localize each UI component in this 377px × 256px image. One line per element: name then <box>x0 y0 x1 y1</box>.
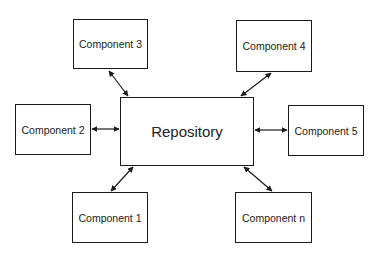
component-3-node: Component 3 <box>73 19 148 69</box>
component-5-node: Component 5 <box>288 105 364 156</box>
edge-component-3-repository <box>109 71 128 96</box>
edge-component-4-repository <box>241 73 271 96</box>
component-4-node: Component 4 <box>236 20 312 72</box>
edge-component-n-repository <box>244 167 272 191</box>
component-n-node: Component n <box>235 192 312 243</box>
edge-component-1-repository <box>111 167 133 191</box>
component-2-node: Component 2 <box>15 104 91 155</box>
component-1-node: Component 1 <box>72 192 148 243</box>
repository-node: Repository <box>120 97 254 166</box>
